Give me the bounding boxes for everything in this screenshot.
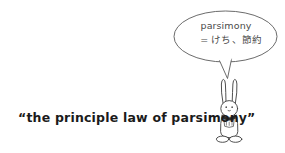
left-foot	[216, 136, 228, 142]
left-eye	[225, 106, 227, 108]
right-eye	[231, 106, 233, 108]
right-foot	[229, 136, 241, 142]
left-ear-icon	[221, 79, 226, 103]
cartoon-scene	[0, 0, 285, 153]
speech-bubble-tail	[220, 59, 232, 78]
right-ear-icon	[232, 79, 237, 103]
illustration-canvas: parsimony = けち、節約 “the principle law of …	[0, 0, 285, 153]
speech-bubble-ellipse	[174, 11, 277, 62]
caption-text: “the principle law of parsimony”	[18, 110, 214, 125]
speech-bubble	[174, 11, 277, 79]
